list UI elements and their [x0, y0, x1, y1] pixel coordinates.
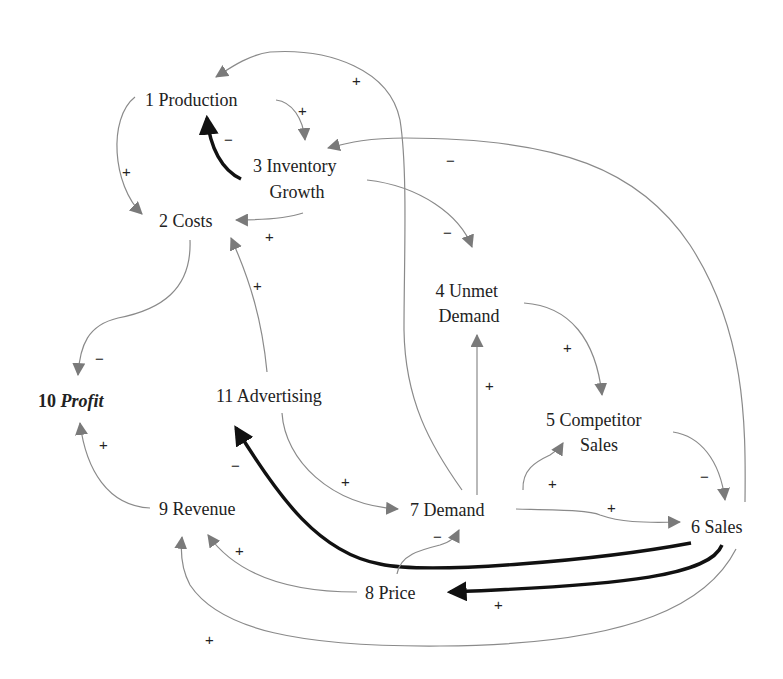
node-competitor-sales: 5 Competitor Sales — [546, 410, 646, 455]
node-label-number: 10 — [38, 391, 61, 411]
link-production-to-costs — [117, 97, 142, 214]
node-inventory-growth: 3 Inventory Growth — [253, 156, 341, 202]
node-unmet-demand: 4 Unmet Demand — [436, 281, 503, 326]
link-sales-to-advertising — [236, 428, 691, 568]
node-label-line: Demand — [439, 306, 500, 326]
node-label-line: Sales — [580, 435, 618, 455]
causal-loop-diagram: + + − + − − + + − + + + − + + − + − + + … — [0, 0, 783, 679]
polarity-sign: + — [265, 228, 274, 245]
node-price: 8 Price — [365, 583, 415, 603]
polarity-sign: + — [235, 542, 244, 559]
node-label-line: 4 Unmet — [436, 281, 499, 301]
node-costs: 2 Costs — [159, 211, 213, 231]
polarity-sign: − — [433, 528, 442, 545]
link-sales-to-inventory — [328, 138, 745, 502]
link-demand-to-production — [216, 52, 462, 490]
link-inventory-to-unmet-demand — [367, 180, 472, 247]
link-advertising-to-costs — [231, 238, 267, 372]
node-production: 1 Production — [145, 90, 238, 110]
node-label-line: 5 Competitor — [546, 410, 642, 430]
node-advertising: 11 Advertising — [216, 386, 322, 406]
polarity-sign: + — [205, 631, 214, 648]
node-revenue: 9 Revenue — [159, 499, 235, 519]
node-label-line: Growth — [270, 182, 325, 202]
link-price-to-revenue — [208, 535, 357, 592]
link-inventory-to-production — [207, 118, 241, 179]
polarity-sign: − — [231, 457, 240, 474]
polarity-sign: − — [224, 131, 233, 148]
polarity-sign: + — [548, 475, 557, 492]
node-sales: 6 Sales — [691, 517, 743, 537]
link-advertising-to-demand — [282, 413, 398, 509]
node-label-italic: Profit — [60, 391, 105, 411]
node-demand: 7 Demand — [410, 500, 484, 520]
polarity-sign: + — [298, 102, 307, 119]
polarity-sign: + — [494, 596, 503, 613]
polarity-sign: + — [253, 277, 262, 294]
polarity-sign: + — [607, 499, 616, 516]
node-profit: 10 Profit — [38, 391, 104, 411]
polarity-sign: − — [700, 468, 709, 485]
polarity-sign: + — [485, 377, 494, 394]
polarity-sign: + — [341, 473, 350, 490]
link-demand-to-competitor-sales — [523, 443, 563, 490]
polarity-sign: − — [443, 224, 452, 241]
link-competitor-sales-to-sales — [673, 432, 725, 500]
link-sales-to-price — [450, 545, 722, 592]
polarity-sign: + — [563, 339, 572, 356]
link-revenue-to-profit — [80, 423, 150, 508]
polarity-sign: + — [122, 163, 131, 180]
polarity-sign: + — [99, 436, 108, 453]
link-demand-to-sales — [516, 509, 680, 522]
polarity-sign: − — [95, 350, 104, 367]
link-inventory-to-costs — [236, 213, 303, 220]
polarity-sign: − — [446, 152, 455, 169]
polarity-sign: + — [352, 72, 361, 89]
node-label-line: 3 Inventory — [253, 156, 336, 176]
